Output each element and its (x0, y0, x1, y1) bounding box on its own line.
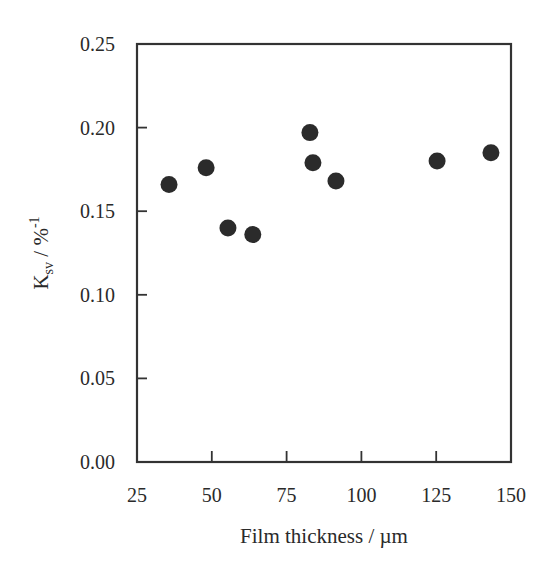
x-tick-label: 75 (277, 484, 297, 506)
y-axis-title-unit: / % (29, 228, 53, 262)
y-tick-label: 0.00 (80, 451, 115, 473)
y-axis-title-sub: sv (41, 262, 56, 274)
y-tick-label: 0.15 (80, 200, 115, 222)
y-tick-label: 0.10 (80, 284, 115, 306)
svg-text:Ksv / %-1: Ksv / %-1 (27, 216, 56, 289)
data-point (301, 124, 318, 141)
x-tick-label: 50 (202, 484, 222, 506)
data-point (429, 153, 446, 170)
data-point (198, 159, 215, 176)
x-tick-label: 150 (496, 484, 526, 506)
scatter-chart: 0.000.050.100.150.200.25 255075100125150… (0, 0, 556, 573)
y-tick-label: 0.20 (80, 117, 115, 139)
x-tick-label: 100 (346, 484, 376, 506)
data-point (482, 144, 499, 161)
data-points (161, 124, 500, 243)
y-axis-title-sup: -1 (27, 216, 42, 228)
data-point (327, 173, 344, 190)
y-tick-label: 0.05 (80, 367, 115, 389)
plot-frame (137, 44, 511, 462)
y-axis-title-main: K (29, 274, 53, 289)
x-axis-title: Film thickness / µm (240, 524, 408, 548)
y-axis-title: Ksv / %-1 (27, 216, 56, 289)
data-point (304, 154, 321, 171)
x-tick-label: 25 (127, 484, 147, 506)
data-point (244, 226, 261, 243)
x-tick-label: 125 (421, 484, 451, 506)
data-point (161, 176, 178, 193)
x-axis-ticks: 255075100125150 (127, 451, 526, 506)
plot-border (137, 44, 511, 462)
data-point (219, 219, 236, 236)
y-tick-label: 0.25 (80, 33, 115, 55)
